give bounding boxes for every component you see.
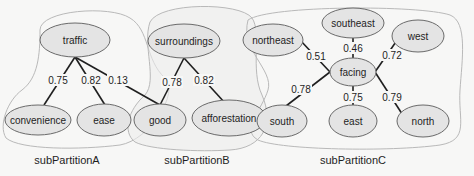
node-ease: ease	[77, 104, 131, 136]
weight-facing-west: 0.72	[382, 50, 402, 61]
weight-facing-northeast: 0.51	[306, 51, 326, 62]
weight-facing-north: 0.79	[382, 92, 402, 103]
partition-a-label: subPartitionA	[34, 154, 100, 166]
node-southeast: southeast	[322, 8, 384, 38]
svg-text:southeast: southeast	[331, 18, 375, 29]
svg-text:south: south	[270, 116, 294, 127]
svg-text:facing: facing	[340, 67, 367, 78]
node-convenience: convenience	[5, 105, 71, 135]
svg-text:surroundings: surroundings	[155, 36, 213, 47]
node-good: good	[134, 104, 186, 136]
node-west: west	[392, 20, 444, 52]
node-north: north	[397, 105, 449, 137]
svg-text:ease: ease	[93, 115, 115, 126]
svg-text:good: good	[149, 115, 171, 126]
svg-text:traffic: traffic	[63, 35, 87, 46]
partition-b-label: subPartitionB	[164, 154, 229, 166]
node-northeast: northeast	[243, 24, 303, 56]
svg-text:east: east	[344, 116, 363, 127]
node-south: south	[257, 105, 307, 137]
svg-text:north: north	[412, 116, 435, 127]
weight-facing-southeast: 0.46	[343, 43, 363, 54]
weight-traffic-convenience: 0.75	[48, 75, 68, 86]
weight-surroundings-good: 0.78	[162, 77, 182, 88]
node-east: east	[329, 105, 377, 137]
weight-traffic-good: 0.13	[108, 75, 128, 86]
weight-surroundings-afforestation: 0.82	[194, 75, 214, 86]
weight-facing-east: 0.75	[343, 92, 363, 103]
node-afforestation: afforestation	[192, 100, 266, 136]
svg-text:northeast: northeast	[252, 35, 294, 46]
weight-traffic-ease: 0.82	[81, 75, 101, 86]
node-traffic: traffic	[40, 23, 110, 57]
node-surroundings: surroundings	[148, 24, 220, 58]
weight-facing-south: 0.78	[291, 84, 311, 95]
svg-text:afforestation: afforestation	[202, 113, 257, 124]
svg-text:west: west	[407, 31, 429, 42]
partition-graph-diagram: 0.75 0.82 0.13 0.78 0.82 0.51 0.46 0.72 …	[0, 0, 474, 176]
svg-text:convenience: convenience	[10, 115, 67, 126]
partition-c-label: subPartitionC	[320, 154, 386, 166]
node-facing: facing	[330, 58, 376, 86]
